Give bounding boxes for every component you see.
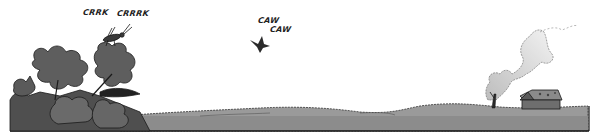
crow-sound-caw-2: CAW	[269, 25, 292, 34]
flower-left	[32, 46, 87, 89]
flower-bottom	[92, 100, 128, 128]
smoke-plume-icon	[486, 25, 578, 100]
cabin-icon	[520, 90, 562, 109]
dark-leaf	[100, 88, 140, 96]
landscape-scene	[0, 0, 592, 137]
crow-icon	[250, 36, 270, 53]
flower-bud	[13, 76, 35, 96]
flower-bottom	[50, 97, 93, 124]
cricket-sound-crrrk: CRRRK	[116, 9, 149, 18]
flower-right	[94, 43, 135, 87]
crow-sound-caw-1: CAW	[257, 16, 280, 25]
flower-cluster-icon	[10, 43, 150, 131]
cricket-sound-crrk: CRRK	[82, 8, 109, 17]
cabin-wall	[522, 100, 560, 109]
